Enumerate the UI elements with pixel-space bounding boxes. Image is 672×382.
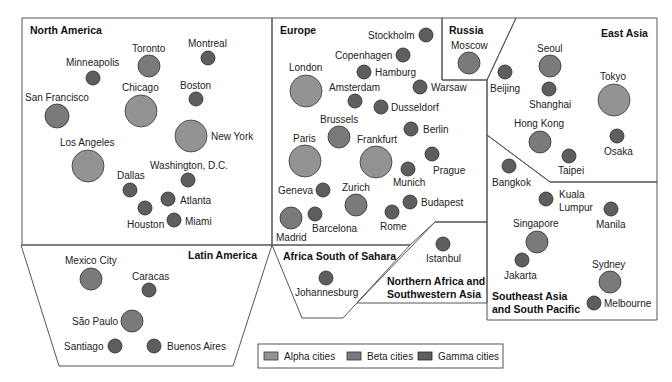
city-marker-jakarta: [515, 253, 529, 267]
city-label-berlin: Berlin: [423, 124, 449, 135]
city-label-prague: Prague: [433, 165, 466, 176]
city-marker-beijing: [498, 65, 512, 79]
world-city-map: North America Latin America Europe Russi…: [0, 0, 672, 382]
city-label-mexico-city: Mexico City: [65, 255, 117, 266]
region-label-north-america: North America: [30, 24, 102, 36]
city-marker-geneva: [316, 183, 330, 197]
city-marker-boston: [189, 92, 203, 106]
city-marker-sao-paulo: [121, 310, 143, 332]
city-marker-osaka: [610, 129, 624, 143]
city-label-frankfurt: Frankfurt: [357, 134, 397, 145]
city-marker-dusseldorf: [374, 100, 388, 114]
city-marker-brussels: [328, 126, 350, 148]
city-marker-miami: [167, 213, 181, 227]
region-label-southeast-asia-line2: and South Pacific: [492, 303, 580, 315]
city-marker-shanghai: [542, 82, 556, 96]
region-latin-america: [21, 245, 272, 366]
city-marker-stockholm: [419, 28, 433, 42]
city-marker-los-angeles: [72, 150, 104, 182]
city-label-miami: Miami: [185, 216, 212, 227]
city-label-bangkok: Bangkok: [492, 177, 532, 188]
city-label-caracas: Caracas: [132, 271, 169, 282]
city-marker-singapore: [526, 231, 548, 253]
region-label-latin-america: Latin America: [188, 249, 257, 261]
city-marker-dallas: [123, 183, 137, 197]
city-label-hamburg: Hamburg: [375, 67, 416, 78]
city-label-dusseldorf: Dusseldorf: [391, 102, 439, 113]
legend-label-gamma: Gamma cities: [438, 351, 499, 362]
cities-northern-africa: Istanbul: [426, 237, 461, 264]
city-label-beijing: Beijing: [490, 83, 520, 94]
region-label-northern-africa-line1: Northern Africa and: [387, 275, 485, 287]
city-label-barcelona: Barcelona: [312, 223, 357, 234]
city-marker-atlanta: [161, 192, 175, 206]
city-marker-minneapolis: [86, 71, 100, 85]
city-marker-buenos-aires: [147, 339, 161, 353]
city-marker-kuala-lumpur: [539, 192, 553, 206]
city-marker-san-francisco: [45, 104, 69, 128]
legend-swatch-alpha: [264, 352, 278, 360]
city-label-sao-paulo: São Paulo: [72, 316, 119, 327]
city-label-los-angeles: Los Angeles: [60, 137, 115, 148]
city-marker-moscow: [458, 52, 480, 74]
city-marker-prague: [425, 147, 439, 161]
legend-label-alpha: Alpha cities: [284, 351, 335, 362]
city-marker-munich: [401, 162, 415, 176]
city-marker-budapest: [403, 195, 417, 209]
city-label-istanbul: Istanbul: [426, 253, 461, 264]
region-label-russia: Russia: [449, 24, 484, 36]
cities-russia: Moscow: [451, 40, 488, 74]
city-label-amsterdam: Amsterdam: [329, 82, 380, 93]
city-marker-houston: [138, 201, 152, 215]
city-marker-toronto: [138, 55, 160, 77]
city-label-manila: Manila: [596, 219, 626, 230]
city-label-warsaw: Warsaw: [431, 82, 468, 93]
city-label-atlanta: Atlanta: [180, 195, 212, 206]
city-label-san-francisco: San Francisco: [25, 92, 89, 103]
city-marker-johannesburg: [319, 271, 333, 285]
city-marker-rome: [385, 205, 399, 219]
region-label-southeast-asia-line1: Southeast Asia: [492, 290, 568, 302]
city-marker-berlin: [404, 122, 418, 136]
city-marker-santiago: [108, 339, 122, 353]
city-marker-zurich: [345, 194, 367, 216]
city-label-washington-dc: Washington, D.C.: [150, 160, 228, 171]
city-label-boston: Boston: [180, 80, 211, 91]
city-label-johannesburg: Johannesburg: [295, 287, 358, 298]
region-label-east-asia: East Asia: [601, 27, 648, 39]
city-label-montreal: Montreal: [188, 38, 227, 49]
city-marker-new-york: [175, 120, 207, 152]
city-marker-taipei: [562, 149, 576, 163]
city-marker-london: [290, 75, 322, 107]
city-marker-madrid: [280, 207, 302, 229]
city-label-taipei: Taipei: [558, 165, 584, 176]
city-label-kuala: Kuala: [559, 189, 585, 200]
city-marker-barcelona: [308, 207, 322, 221]
city-marker-mexico-city: [80, 268, 102, 290]
region-label-northern-africa-line2: Southwestern Asia: [387, 288, 481, 300]
city-label-rome: Rome: [380, 221, 407, 232]
city-label-moscow: Moscow: [451, 40, 488, 51]
city-marker-montreal: [201, 51, 215, 65]
city-label-lumpur: Lumpur: [559, 202, 594, 213]
city-marker-frankfurt: [360, 146, 392, 178]
city-marker-manila: [604, 202, 618, 216]
city-label-toronto: Toronto: [132, 43, 166, 54]
city-label-santiago: Santiago: [64, 341, 104, 352]
region-label-europe: Europe: [280, 24, 316, 36]
city-marker-hamburg: [357, 65, 371, 79]
city-label-jakarta: Jakarta: [504, 270, 537, 281]
city-label-tokyo: Tokyo: [600, 71, 627, 82]
city-marker-paris: [289, 145, 321, 177]
city-label-shanghai: Shanghai: [529, 99, 571, 110]
city-label-osaka: Osaka: [604, 146, 633, 157]
cities-north-america: Toronto Montreal Minneapolis Chicago Bos…: [25, 38, 254, 230]
city-marker-copenhagen: [396, 48, 410, 62]
city-marker-amsterdam: [348, 94, 362, 108]
region-label-africa-south-of-sahara: Africa South of Sahara: [283, 250, 396, 262]
city-label-buenos-aires: Buenos Aires: [167, 341, 226, 352]
city-label-geneva: Geneva: [278, 185, 313, 196]
city-marker-tokyo: [598, 84, 630, 116]
city-label-hong-kong: Hong Kong: [514, 118, 564, 129]
cities-east-asia: Seoul Beijing Tokyo Shanghai Hong Kong O…: [490, 43, 633, 176]
